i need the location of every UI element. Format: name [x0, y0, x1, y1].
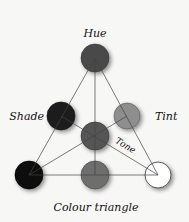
tone-label: Tone — [114, 136, 138, 156]
colour-triangle-diagram: Hue Shade Tint Tone Colour triangle — [0, 0, 189, 222]
tint-label: Tint — [155, 110, 178, 123]
diagram-caption: Colour triangle — [54, 201, 139, 214]
shade-label: Shade — [9, 110, 44, 123]
hue-label: Hue — [82, 27, 107, 40]
